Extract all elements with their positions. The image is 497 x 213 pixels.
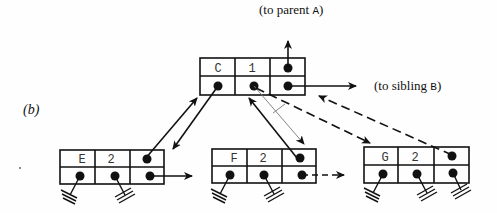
speck-dot (19, 167, 21, 169)
node-g: G 2 (364, 147, 469, 183)
panel-label: (b) (23, 102, 40, 118)
node-f-count: 2 (259, 152, 266, 166)
null-ground-icon (61, 176, 80, 204)
node-g-count: 2 (411, 151, 418, 165)
node-g-key: G (381, 151, 388, 165)
node-c-count: 1 (248, 62, 255, 76)
node-f: F 2 (212, 149, 316, 183)
node-e: E 2 (60, 150, 164, 184)
null-ground-icon (211, 175, 230, 203)
tree-diagram: (to parent A) (to sibling B) (b) C 1 E 2 (0, 0, 497, 213)
parent-label: (to parent A) (259, 2, 323, 17)
node-e-key: E (78, 153, 85, 167)
child-to-parent-arrow-g (319, 96, 452, 155)
sibling-label: (to sibling B) (374, 78, 441, 93)
pointer-dot (143, 155, 152, 164)
pointer-dot (296, 154, 305, 163)
null-ground-icon (115, 176, 135, 203)
null-ground-icon (264, 175, 284, 202)
node-c-key: C (214, 62, 221, 76)
diagram-svg: (to parent A) (to sibling B) (b) C 1 E 2 (0, 0, 497, 213)
parent-to-child-arrow-g (256, 88, 370, 143)
null-ground-icon (364, 174, 383, 202)
cut-mark (273, 104, 285, 113)
node-f-key: F (230, 152, 237, 166)
node-e-count: 2 (107, 153, 114, 167)
pointer-dot (448, 152, 457, 161)
